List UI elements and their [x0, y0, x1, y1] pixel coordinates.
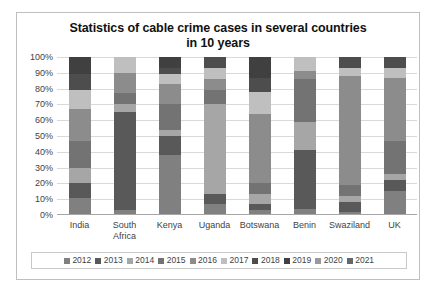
- legend-item[interactable]: 2015: [158, 256, 185, 265]
- bar-segment[interactable]: [384, 180, 406, 191]
- legend-label: 2014: [135, 256, 154, 265]
- stacked-bar[interactable]: [69, 57, 91, 215]
- bar-segment[interactable]: [294, 57, 316, 71]
- bar-segment[interactable]: [69, 109, 91, 141]
- bar-segment[interactable]: [249, 57, 271, 78]
- x-axis-label: Botswana: [237, 217, 282, 251]
- bar-segment[interactable]: [294, 79, 316, 122]
- stacked-bar[interactable]: [384, 57, 406, 215]
- bar-segment[interactable]: [384, 174, 406, 180]
- legend-swatch-icon: [284, 258, 290, 264]
- bar-segment[interactable]: [204, 68, 226, 79]
- bar-segment[interactable]: [114, 57, 136, 73]
- legend-item[interactable]: 2012: [64, 256, 91, 265]
- bar-segment[interactable]: [159, 155, 181, 215]
- stacked-bar[interactable]: [114, 57, 136, 215]
- bar-segment[interactable]: [249, 78, 271, 92]
- chart-title-line-1: Statistics of cable crime cases in sever…: [17, 21, 419, 36]
- bar-segment[interactable]: [204, 194, 226, 203]
- bar-segment[interactable]: [294, 150, 316, 208]
- bar-segment[interactable]: [159, 130, 181, 136]
- bar-segment[interactable]: [114, 73, 136, 94]
- axis-baseline: [57, 214, 417, 215]
- bar-segment[interactable]: [249, 194, 271, 203]
- stacked-bar[interactable]: [294, 57, 316, 215]
- bar-segment[interactable]: [339, 196, 361, 202]
- bar-segment[interactable]: [159, 104, 181, 129]
- bar-segment[interactable]: [249, 114, 271, 184]
- legend-item[interactable]: 2016: [190, 256, 217, 265]
- bar-segment[interactable]: [339, 57, 361, 68]
- bar-segment[interactable]: [204, 57, 226, 68]
- legend-swatch-icon: [315, 258, 321, 264]
- bar-segment[interactable]: [69, 198, 91, 215]
- plot-wrapper: 100%90%80%70%60%50%40%30%20%10%0% IndiaS…: [17, 57, 421, 237]
- y-axis-tick: 70%: [35, 100, 53, 109]
- bar-segment[interactable]: [114, 93, 136, 104]
- bar-segment[interactable]: [384, 57, 406, 68]
- y-axis-tick: 10%: [35, 195, 53, 204]
- bar-segment[interactable]: [69, 141, 91, 168]
- bar-slot: [327, 57, 372, 215]
- x-axis-label-line: Africa: [102, 231, 147, 242]
- legend-item[interactable]: 2014: [127, 256, 154, 265]
- bar-segment[interactable]: [249, 92, 271, 114]
- legend-swatch-icon: [64, 258, 70, 264]
- legend-label: 2020: [324, 256, 343, 265]
- x-axis-label: Uganda: [192, 217, 237, 251]
- legend-label: 2015: [167, 256, 186, 265]
- legend-swatch-icon: [190, 258, 196, 264]
- bar-segment[interactable]: [339, 185, 361, 196]
- legend-swatch-icon: [127, 258, 133, 264]
- legend-item[interactable]: 2017: [221, 256, 248, 265]
- bar-slot: [192, 57, 237, 215]
- bar-segment[interactable]: [114, 104, 136, 112]
- x-axis-label: Swaziland: [327, 217, 372, 251]
- bar-segment[interactable]: [159, 84, 181, 105]
- bar-segment[interactable]: [384, 191, 406, 215]
- y-axis-tick: 80%: [35, 84, 53, 93]
- legend-label: 2018: [261, 256, 280, 265]
- bar-segment[interactable]: [159, 57, 181, 68]
- y-axis-tick: 60%: [35, 116, 53, 125]
- bar-segment[interactable]: [339, 202, 361, 211]
- bar-segment[interactable]: [69, 183, 91, 197]
- x-axis-label-line: Botswana: [237, 220, 282, 231]
- bar-segment[interactable]: [69, 168, 91, 184]
- bar-segment[interactable]: [384, 78, 406, 141]
- bar-segment[interactable]: [294, 122, 316, 150]
- bar-segment[interactable]: [204, 90, 226, 104]
- bar-segment[interactable]: [384, 141, 406, 174]
- bar-segment[interactable]: [339, 76, 361, 185]
- bar-slot: [147, 57, 192, 215]
- bar-segment[interactable]: [69, 74, 91, 90]
- y-axis-tick: 20%: [35, 179, 53, 188]
- legend-item[interactable]: 2013: [95, 256, 122, 265]
- bar-segment[interactable]: [249, 183, 271, 194]
- stacked-bar[interactable]: [339, 57, 361, 215]
- bar-segment[interactable]: [159, 136, 181, 155]
- bar-segment[interactable]: [294, 71, 316, 79]
- legend-item[interactable]: 2020: [315, 256, 342, 265]
- bar-slot: [57, 57, 102, 215]
- stacked-bar[interactable]: [249, 57, 271, 215]
- bar-slot: [372, 57, 417, 215]
- bar-segment[interactable]: [114, 112, 136, 210]
- bar-segment[interactable]: [204, 104, 226, 194]
- bar-segment[interactable]: [339, 68, 361, 76]
- bar-segment[interactable]: [159, 74, 181, 83]
- bar-segment[interactable]: [204, 79, 226, 90]
- legend-item[interactable]: 2021: [347, 256, 374, 265]
- x-axis-label-line: UK: [372, 220, 417, 231]
- stacked-bar[interactable]: [159, 57, 181, 215]
- bar-segment[interactable]: [69, 57, 91, 74]
- legend-item[interactable]: 2018: [252, 256, 279, 265]
- bar-segment[interactable]: [159, 68, 181, 74]
- bar-slot: [282, 57, 327, 215]
- legend-item[interactable]: 2019: [284, 256, 311, 265]
- chart-container: Statistics of cable crime cases in sever…: [16, 12, 420, 280]
- bar-segment[interactable]: [69, 90, 91, 109]
- bar-segment[interactable]: [384, 68, 406, 77]
- stacked-bar[interactable]: [204, 57, 226, 215]
- bar-segment[interactable]: [249, 204, 271, 210]
